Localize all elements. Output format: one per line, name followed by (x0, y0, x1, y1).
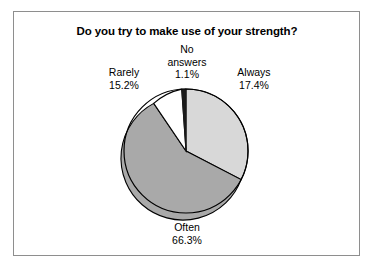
pie-label-rarely-name: Rarely (86, 66, 162, 79)
pie-label-often-name: Often (142, 221, 232, 234)
pie-label-always-percent: 17.4% (216, 79, 292, 92)
pie-label-often: Often 66.3% (142, 221, 232, 246)
pie-label-rarely: Rarely 15.2% (86, 66, 162, 91)
pie-label-no-answers-name-line1: No (142, 43, 232, 56)
pie-label-often-percent: 66.3% (142, 234, 232, 247)
pie-graphic (110, 80, 262, 224)
pie-label-always-name: Always (216, 66, 292, 79)
pie-label-rarely-percent: 15.2% (86, 79, 162, 92)
chart-title: Do you try to make use of your strength? (13, 25, 361, 37)
pie-chart-figure: Do you try to make use of your strength?… (0, 0, 376, 274)
pie-label-always: Always 17.4% (216, 66, 292, 91)
